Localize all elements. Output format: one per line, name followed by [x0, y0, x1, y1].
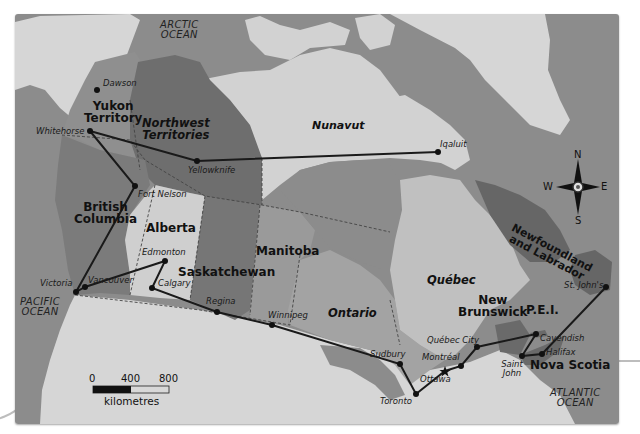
pei-label: P.E.I.: [526, 304, 559, 316]
city-label-cavendish: Cavendish: [540, 334, 584, 343]
scale-unit-label: kilometres: [104, 396, 159, 407]
compass-west: W: [543, 182, 553, 192]
atlantic-ocean-label: ATLANTICOCEAN: [550, 388, 601, 408]
pacific-ocean-label: PACIFICOCEAN: [20, 297, 60, 317]
city-label-montreal: Montréal: [422, 353, 460, 362]
city-label-regina: Regina: [206, 297, 236, 306]
city-label-victoria: Victoria: [40, 279, 72, 288]
city-label-calgary: Calgary: [158, 279, 191, 288]
quebec-label: Québec: [427, 275, 476, 287]
city-label-winnipeg: Winnipeg: [268, 311, 308, 320]
alberta-label: Alberta: [146, 222, 196, 234]
city-label-dawson: Dawson: [103, 79, 137, 88]
city-label-st-johns: St. John's: [564, 281, 603, 290]
city-label-vancouver: Vancouver: [88, 276, 133, 285]
manitoba-label: Manitoba: [256, 245, 319, 257]
nwt-label: NorthwestTerritories: [142, 118, 210, 141]
city-label-iqaluit: Iqaluit: [440, 140, 467, 149]
scale-tick-800: 800: [159, 374, 178, 384]
yukon-label: YukonTerritory: [84, 100, 142, 124]
nunavut-label: Nunavut: [312, 120, 365, 131]
arctic-ocean-label: ARCTICOCEAN: [160, 20, 199, 40]
city-label-edmonton: Edmonton: [142, 248, 186, 257]
scale-bar: [93, 386, 169, 393]
scale-tick-400: 400: [121, 374, 140, 384]
city-label-yellowknife: Yellowknife: [188, 166, 235, 175]
city-label-whitehorse: Whitehorse: [36, 127, 84, 136]
city-label-fort-nelson: Fort Nelson: [138, 190, 187, 199]
city-label-halifax: Halifax: [546, 348, 576, 357]
city-label-quebec-city: Québec City: [427, 336, 479, 345]
compass-east: E: [601, 182, 607, 192]
bc-label: BritishColumbia: [74, 201, 137, 225]
city-label-ottawa: Ottawa: [420, 375, 451, 384]
ontario-label: Ontario: [328, 308, 377, 320]
scale-tick-0: 0: [89, 374, 95, 384]
new-brunswick-label: NewBrunswick: [458, 294, 528, 318]
nova-scotia-label: Nova Scotia: [530, 359, 610, 371]
city-label-sudbury: Sudbury: [370, 350, 406, 359]
city-label-toronto: Toronto: [380, 397, 412, 406]
compass-south: S: [575, 216, 581, 226]
saskatchewan-label: Saskatchewan: [178, 266, 275, 278]
city-label-saint-john: Saint John: [500, 360, 524, 377]
compass-north: N: [574, 150, 581, 160]
